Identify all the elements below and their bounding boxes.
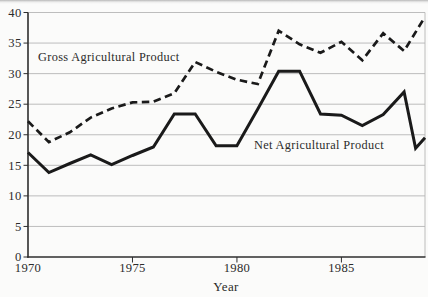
x-axis-tick-label: 1985 xyxy=(328,261,354,275)
x-axis-tick-label: 1975 xyxy=(119,261,145,275)
y-axis-tick-label: 10 xyxy=(8,189,21,203)
y-axis-tick-label: 35 xyxy=(8,36,21,50)
y-axis-tick-label: 40 xyxy=(8,6,21,20)
net-series-line xyxy=(28,71,425,172)
x-axis-title: Year xyxy=(213,279,239,294)
y-axis-tick-label: 5 xyxy=(15,220,22,234)
y-axis-tick-label: 20 xyxy=(8,128,21,142)
x-axis-tick-label: 1980 xyxy=(224,261,250,275)
y-axis-tick-label: 30 xyxy=(8,67,21,81)
net-series-label: Net Agricultural Product xyxy=(254,138,384,152)
y-axis-tick-label: 25 xyxy=(8,97,21,111)
x-axis-tick-label: 1970 xyxy=(15,261,41,275)
agricultural-product-chart: 05101520253035401970197519801985 Gross A… xyxy=(0,0,428,297)
y-axis-tick-label: 15 xyxy=(8,159,21,173)
gross-series-label: Gross Agricultural Product xyxy=(38,50,180,64)
figure-page: 05101520253035401970197519801985 Gross A… xyxy=(0,0,428,297)
